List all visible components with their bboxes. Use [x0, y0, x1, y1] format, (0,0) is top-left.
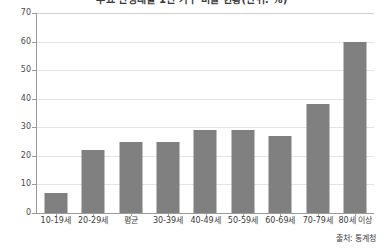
bar-group	[187, 13, 224, 213]
x-tick-label: 80세 이상	[338, 217, 372, 226]
bars-layer	[37, 13, 374, 213]
y-tick-label: 40	[1, 95, 31, 103]
x-tick-label: 30-39세	[153, 217, 183, 226]
y-tick-label: 50	[1, 66, 31, 74]
x-tick-label: 평균	[124, 217, 138, 226]
y-tick-label: 10	[1, 180, 31, 188]
bar	[269, 136, 292, 213]
y-tick-mark-10	[32, 184, 36, 185]
y-tick-mark-30	[32, 127, 36, 128]
y-tick-mark-50	[32, 70, 36, 71]
y-tick-label: 0	[1, 209, 31, 217]
x-tick-label: 60-69세	[265, 217, 295, 226]
x-tick-label: 10-19세	[41, 217, 71, 226]
bar	[119, 142, 142, 213]
bar-group	[299, 13, 336, 213]
x-tick-label: 70-79세	[303, 217, 333, 226]
bar	[82, 150, 105, 213]
y-tick-mark-20	[32, 156, 36, 157]
bar	[44, 193, 67, 213]
y-tick-label: 30	[1, 123, 31, 131]
bar-group	[74, 13, 111, 213]
bar-group	[112, 13, 149, 213]
bar-group	[262, 13, 299, 213]
plot-area	[36, 13, 374, 213]
x-tick-label: 40-49세	[190, 217, 220, 226]
y-tick-label: 60	[1, 38, 31, 46]
y-axis-tick-labels: 010203040506070	[0, 13, 31, 213]
bar-group	[224, 13, 261, 213]
bar-group	[337, 13, 374, 213]
y-tick-mark-0	[32, 213, 36, 214]
bar-group	[37, 13, 74, 213]
bar	[157, 142, 180, 213]
y-tick-mark-60	[32, 42, 36, 43]
bar	[306, 104, 329, 213]
bar-group	[149, 13, 186, 213]
y-tick-label: 70	[1, 9, 31, 17]
y-tick-label: 20	[1, 152, 31, 160]
x-tick-label: 20-29세	[78, 217, 108, 226]
source-note: 출처: 통계청	[336, 232, 376, 243]
y-tick-mark-40	[32, 99, 36, 100]
chart-title: 주요 연령대별 1인 가구 비율 현황(단위: %)	[0, 0, 384, 6]
x-tick-label: 50-59세	[228, 217, 258, 226]
bar	[194, 130, 217, 213]
y-tick-mark-70	[32, 13, 36, 14]
bar	[231, 130, 254, 213]
bar	[344, 42, 367, 213]
x-axis-tick-labels: 10-19세20-29세평균30-39세40-49세50-59세60-69세70…	[37, 217, 374, 231]
bar-chart-figure: 주요 연령대별 1인 가구 비율 현황(단위: %) 0102030405060…	[0, 0, 384, 250]
